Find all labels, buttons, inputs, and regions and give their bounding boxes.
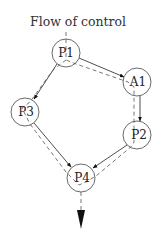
edge-p3-p4 <box>34 123 71 167</box>
node-p1: P1 <box>52 39 80 67</box>
diagram-title: Flow of control <box>30 14 126 29</box>
node-p4: P4 <box>67 164 95 192</box>
svg-text:P2: P2 <box>131 128 147 142</box>
svg-text:P3: P3 <box>18 105 34 119</box>
svg-text:P1: P1 <box>58 46 74 60</box>
flow-diagram: Flow of control P1 A1 P3 P2 P4 <box>0 0 161 235</box>
node-p3: P3 <box>11 98 39 126</box>
node-p2: P2 <box>123 121 151 149</box>
svg-text:P4: P4 <box>74 171 90 185</box>
svg-text:A1: A1 <box>129 75 146 89</box>
edge-p1-a1 <box>79 58 124 77</box>
control-flow-path <box>22 60 134 185</box>
exit-arrowhead <box>77 210 85 229</box>
